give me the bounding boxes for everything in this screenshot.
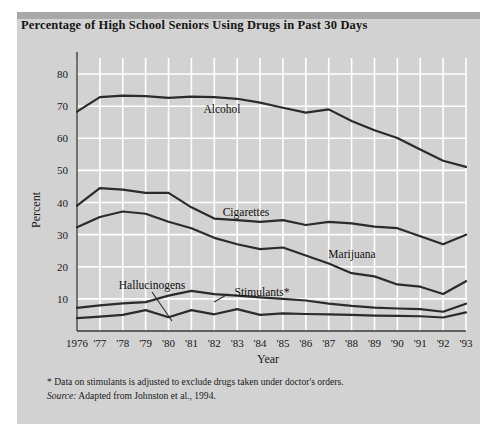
x-tick-label: '81	[185, 337, 198, 349]
series-labels-group: AlcoholCigarettesMarijuanaStimulants*Hal…	[119, 103, 376, 298]
chart-svg: 1020304050607080 1976'77'78'79'80'81'82'…	[0, 0, 497, 437]
screenshot-root: Percentage of High School Seniors Using …	[0, 0, 497, 437]
y-tick-label: 60	[57, 132, 69, 144]
x-tick-label: '92	[437, 337, 450, 349]
x-tick-label: '90	[391, 337, 404, 349]
x-tick-label: '89	[368, 337, 381, 349]
source-label: Source:	[47, 390, 76, 401]
x-tick-label: '83	[231, 337, 244, 349]
y-tick-labels-group: 1020304050607080	[57, 68, 69, 305]
footnote-block: * Data on stimulants is adjusted to excl…	[47, 375, 467, 402]
footnote-asterisk-note: * Data on stimulants is adjusted to excl…	[47, 375, 467, 389]
series-label-alcohol: Alcohol	[203, 103, 240, 115]
series-label-marijuana: Marijuana	[328, 248, 375, 261]
footnote-source: Source: Adapted from Johnston et al., 19…	[47, 389, 467, 403]
x-tick-label: '91	[414, 337, 427, 349]
x-tick-label: '82	[208, 337, 221, 349]
x-tick-label: '79	[139, 337, 152, 349]
y-tick-label: 30	[57, 229, 69, 241]
chart-plot-area: 1020304050607080 1976'77'78'79'80'81'82'…	[0, 0, 497, 437]
x-tick-label: '88	[345, 337, 358, 349]
series-label-cigarettes: Cigarettes	[223, 206, 270, 219]
series-label-hallucinogens: Hallucinogens	[119, 279, 186, 292]
x-tick-label: '87	[322, 337, 335, 349]
y-tick-label: 80	[57, 68, 69, 80]
x-tick-label: '84	[254, 337, 267, 349]
y-tick-label: 50	[57, 164, 69, 176]
source-text: Adapted from Johnston et al., 1994.	[76, 390, 215, 401]
y-tick-label: 70	[57, 100, 69, 112]
x-tick-label: 1976	[66, 337, 89, 349]
x-tick-label: '86	[299, 337, 312, 349]
y-axis-title: Percent	[29, 191, 43, 228]
x-tick-label: '93	[460, 337, 473, 349]
y-tick-label: 20	[57, 261, 69, 273]
series-label-stimulants: Stimulants*	[235, 286, 290, 298]
x-tick-label: '85	[276, 337, 289, 349]
x-tick-label: '80	[162, 337, 175, 349]
y-tick-label: 40	[57, 197, 69, 209]
x-tick-label: '77	[93, 337, 106, 349]
series-line-cigarettes	[77, 188, 466, 244]
y-tick-label: 10	[57, 293, 69, 305]
x-tick-label: '78	[116, 337, 129, 349]
x-tick-labels-group: 1976'77'78'79'80'81'82'83'84'85'86'87'88…	[66, 337, 473, 349]
series-line-hallucinogens	[77, 309, 466, 318]
x-axis-title: Year	[257, 352, 279, 366]
